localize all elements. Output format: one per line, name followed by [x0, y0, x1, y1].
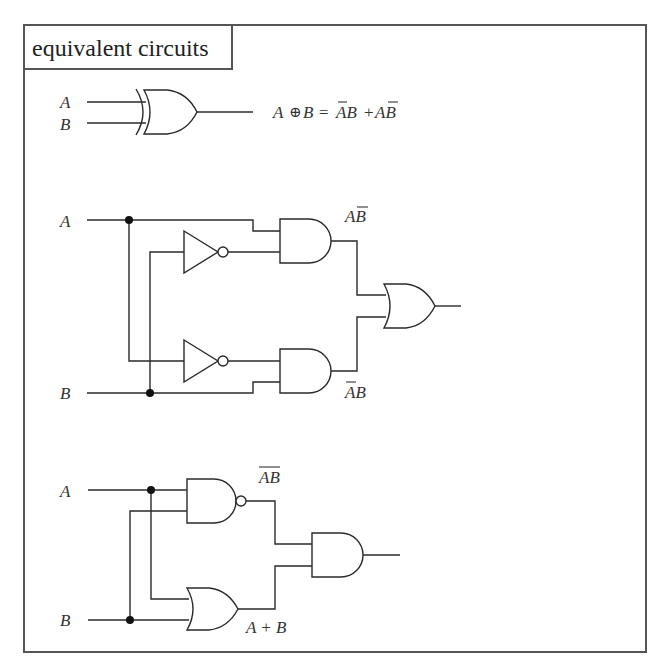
- and-gate-final-icon: [312, 533, 363, 577]
- eq-a: A: [272, 103, 284, 122]
- eq-plus: +: [364, 103, 374, 122]
- top-and-output-label: AB: [344, 207, 366, 226]
- and-gate-bottom-icon: [280, 349, 331, 393]
- or-gate-2-icon: [187, 588, 238, 630]
- equivalent-circuits-diagram: equivalent circuits A B A ⊕ B = AB + AB …: [0, 0, 661, 658]
- not-gate-top-icon: [184, 231, 218, 273]
- wire-b-to-top-not: [150, 252, 184, 393]
- and-or-circuit: A B AB AB: [59, 207, 461, 403]
- wire-bottom-and-to-or: [331, 317, 386, 371]
- nand-or-circuit: A B AB A + B: [59, 467, 400, 637]
- wire-or-to-and: [238, 566, 312, 609]
- junction-a: [125, 216, 133, 224]
- nand-gate-icon: [187, 479, 236, 523]
- nand-input-a-label: A: [59, 482, 71, 501]
- nand-output-label: AB: [258, 468, 280, 487]
- wire-a-to-bottom-not: [129, 220, 184, 361]
- eq-term2: AB: [374, 103, 396, 122]
- nand-input-b-label: B: [60, 611, 71, 630]
- bottom-and-output-label: AB: [344, 383, 366, 402]
- and-or-input-a-label: A: [59, 212, 71, 231]
- not-bubble-top: [218, 247, 228, 257]
- xor-input-b-label: B: [60, 115, 71, 134]
- not-gate-bottom-icon: [184, 340, 218, 382]
- and-or-input-b-label: B: [60, 384, 71, 403]
- wire-nand-to-and: [246, 501, 312, 544]
- xor-gate-icon: [144, 90, 197, 134]
- or-output-label: A + B: [245, 618, 287, 637]
- xor-equation: A ⊕ B = AB + AB: [272, 102, 398, 122]
- xor-symbol: ⊕: [289, 104, 302, 120]
- xor-extra-arc: [136, 89, 143, 135]
- wire-a-to-or: [151, 490, 189, 599]
- xor-input-a-label: A: [59, 93, 71, 112]
- junction-a2: [147, 486, 155, 494]
- diagram-title: equivalent circuits: [32, 35, 209, 61]
- nand-bubble: [236, 496, 246, 506]
- xor-circuit: A B A ⊕ B = AB + AB: [59, 89, 398, 135]
- wire-a-to-top-and: [87, 220, 280, 231]
- wire-b-to-bottom-and: [87, 382, 280, 393]
- eq-b-equals: B =: [303, 103, 329, 122]
- wire-b-to-nand: [130, 511, 187, 620]
- wire-top-and-to-or: [331, 241, 386, 295]
- junction-b: [146, 389, 154, 397]
- eq-term1: AB: [335, 103, 357, 122]
- and-gate-top-icon: [280, 219, 331, 263]
- junction-b2: [126, 616, 134, 624]
- or-gate-icon: [384, 284, 435, 328]
- not-bubble-bottom: [218, 356, 228, 366]
